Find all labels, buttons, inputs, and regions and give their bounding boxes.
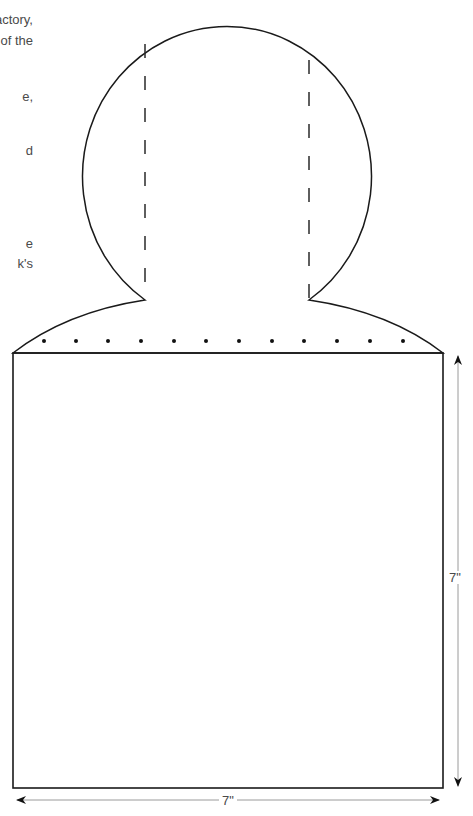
height-dimension-label: 7" bbox=[446, 571, 464, 584]
width-dimension-label: 7" bbox=[219, 794, 237, 807]
stitch-dots bbox=[42, 339, 405, 343]
pattern-outline bbox=[13, 26, 443, 353]
sewing-pattern-diagram bbox=[0, 0, 473, 816]
pattern-body-rectangle bbox=[13, 353, 443, 788]
